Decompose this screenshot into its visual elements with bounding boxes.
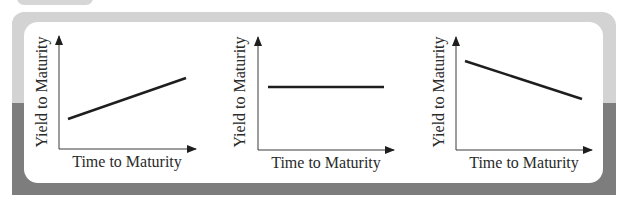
yield-curve-line bbox=[68, 78, 186, 119]
yield-curve-line bbox=[465, 61, 582, 99]
x-axis-label: Time to Maturity bbox=[72, 153, 182, 171]
x-axis-label: Time to Maturity bbox=[271, 154, 381, 172]
chart-flat: Yield to Maturity Time to Maturity bbox=[231, 36, 394, 172]
chart-inverted: Yield to Maturity Time to Maturity bbox=[430, 36, 592, 172]
yield-curve-charts: Yield to Maturity Time to Maturity Yield… bbox=[0, 0, 628, 208]
x-axis-label: Time to Maturity bbox=[469, 154, 579, 172]
chart-upward-sloping: Yield to Maturity Time to Maturity bbox=[33, 36, 196, 171]
y-axis-label: Yield to Maturity bbox=[430, 36, 448, 147]
y-axis-label: Yield to Maturity bbox=[231, 36, 249, 147]
y-axis-label: Yield to Maturity bbox=[33, 36, 51, 147]
